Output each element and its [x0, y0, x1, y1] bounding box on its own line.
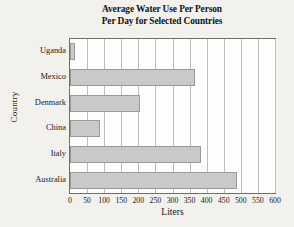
- chart-figure: Average Water Use Per Person Per Day for…: [0, 0, 294, 227]
- bar-denmark: [70, 95, 140, 112]
- y-tick-label-denmark: Denmark: [18, 98, 66, 107]
- bar-china: [70, 120, 100, 137]
- gridline-600: [275, 39, 276, 193]
- bar-italy: [70, 146, 201, 163]
- chart-title: Average Water Use Per Person Per Day for…: [62, 4, 262, 27]
- bar-australia: [70, 172, 237, 189]
- y-tick-label-uganda: Uganda: [18, 46, 66, 55]
- chart-title-line-1: Average Water Use Per Person: [62, 4, 262, 16]
- y-tick-label-italy: Italy: [18, 149, 66, 158]
- y-tick-label-australia: Australia: [18, 175, 66, 184]
- bar-series: [70, 39, 275, 193]
- bar-mexico: [70, 69, 195, 86]
- bar-uganda: [70, 43, 75, 60]
- plot-area: [69, 38, 276, 194]
- x-tick-label-600: 600: [261, 196, 289, 205]
- y-tick-label-china: China: [18, 123, 66, 132]
- chart-title-line-2: Per Day for Selected Countries: [62, 16, 262, 28]
- y-tick-label-mexico: Mexico: [18, 72, 66, 81]
- y-axis-tick-labels: UgandaMexicoDenmarkChinaItalyAustralia: [18, 38, 66, 194]
- x-axis-title: Liters: [69, 206, 276, 217]
